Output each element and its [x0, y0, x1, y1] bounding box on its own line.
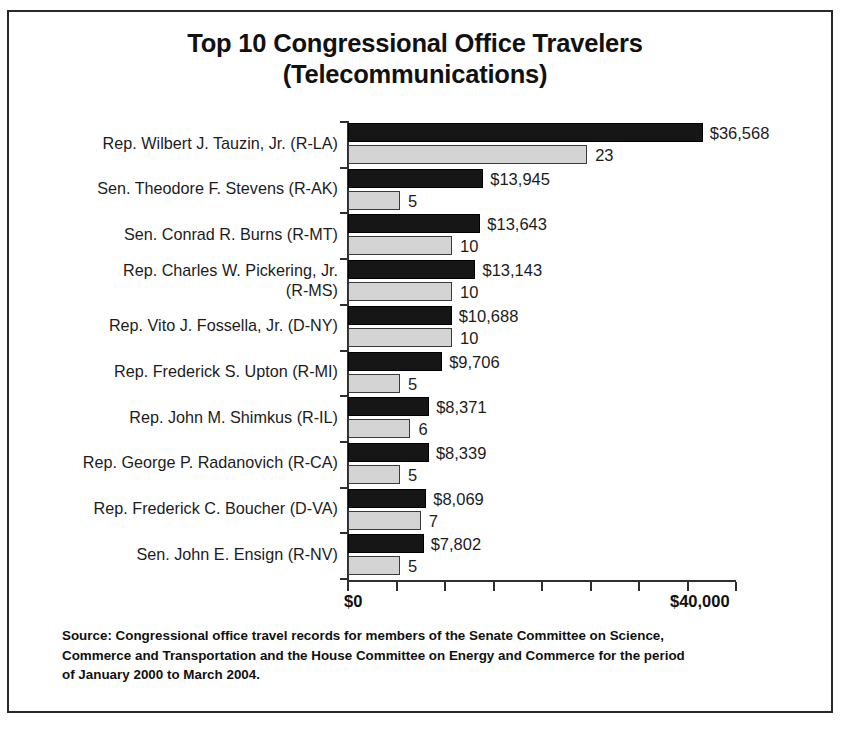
bar-value-travel-cost: $8,339 [436, 444, 486, 463]
bar-value-trip-count: 7 [429, 512, 438, 531]
category-label-text: Rep. George P. Radanovich (R-CA) [18, 452, 338, 472]
y-axis-tick [340, 578, 348, 580]
source-note-line: of January 2000 to March 2004. [62, 665, 762, 685]
category-label-text: Rep. Frederick S. Upton (R-MI) [18, 361, 338, 381]
bar-value-travel-cost: $8,371 [436, 398, 486, 417]
y-axis-tick [340, 395, 348, 397]
bar-value-travel-cost: $36,568 [710, 124, 770, 143]
bar-value-travel-cost: $13,643 [487, 215, 547, 234]
bar-trip-count [348, 556, 400, 575]
y-axis-tick [340, 212, 348, 214]
x-axis-tick [687, 582, 689, 591]
bar-trip-count [348, 328, 452, 347]
bar-travel-cost [348, 306, 452, 325]
bar-travel-cost [348, 489, 426, 508]
category-label-line: Rep. John M. Shimkus (R-IL) [18, 407, 338, 427]
bar-trip-count [348, 465, 400, 484]
x-axis-tick [347, 582, 349, 591]
bar-value-travel-cost: $7,802 [431, 535, 481, 554]
bar-travel-cost [348, 534, 424, 553]
y-axis-tick [340, 487, 348, 489]
y-axis-tick [340, 304, 348, 306]
bar-trip-count [348, 191, 400, 210]
bar-value-travel-cost: $10,688 [459, 307, 519, 326]
chart-figure: Top 10 Congressional Office Travelers (T… [0, 0, 860, 740]
bar-trip-count [348, 236, 452, 255]
source-note-line: Source: Congressional office travel reco… [62, 626, 762, 646]
bar-travel-cost [348, 443, 429, 462]
y-axis-tick [340, 532, 348, 534]
bar-travel-cost [348, 169, 483, 188]
category-label-line: Sen. Conrad R. Burns (R-MT) [18, 224, 338, 244]
category-label: Rep. Wilbert J. Tauzin, Jr. (R-LA) [18, 133, 338, 153]
source-note: Source: Congressional office travel reco… [62, 626, 762, 685]
category-label-line: Rep. Frederick C. Boucher (D-VA) [18, 498, 338, 518]
bar-travel-cost [348, 214, 480, 233]
bar-value-travel-cost: $9,706 [449, 353, 499, 372]
x-axis-tick [493, 582, 495, 591]
source-note-line: Commerce and Transportation and the Hous… [62, 646, 762, 666]
bar-value-trip-count: 10 [460, 329, 478, 348]
category-label: Rep. Frederick C. Boucher (D-VA) [18, 498, 338, 518]
x-axis-tick [735, 582, 737, 591]
x-axis-tick-label: $40,000 [670, 592, 730, 611]
bar-trip-count [348, 282, 452, 301]
category-label: Sen. Theodore F. Stevens (R-AK) [18, 178, 338, 198]
category-label-text: Sen. John E. Ensign (R-NV) [18, 544, 338, 564]
x-axis-tick [541, 582, 543, 591]
category-label: Rep. Vito J. Fossella, Jr. (D-NY) [18, 315, 338, 335]
x-axis-tick [444, 582, 446, 591]
category-label-line: Sen. John E. Ensign (R-NV) [18, 544, 338, 564]
x-axis-tick [638, 582, 640, 591]
category-label-line: Rep. George P. Radanovich (R-CA) [18, 452, 338, 472]
category-label-text: Rep. Wilbert J. Tauzin, Jr. (R-LA) [18, 133, 338, 153]
bar-travel-cost [348, 260, 475, 279]
category-label-text: Sen. Conrad R. Burns (R-MT) [18, 224, 338, 244]
x-axis-tick [396, 582, 398, 591]
bar-value-trip-count: 5 [408, 192, 417, 211]
bar-value-trip-count: 10 [460, 237, 478, 256]
category-label-text: Rep. Frederick C. Boucher (D-VA) [18, 498, 338, 518]
bar-value-travel-cost: $8,069 [433, 490, 483, 509]
category-label-line: Rep. Wilbert J. Tauzin, Jr. (R-LA) [18, 133, 338, 153]
category-label-line: (R-MS) [18, 280, 338, 300]
category-label-text: Rep. Charles W. Pickering, Jr.(R-MS) [18, 260, 338, 300]
category-label-text: Sen. Theodore F. Stevens (R-AK) [18, 178, 338, 198]
bar-value-trip-count: 10 [460, 283, 478, 302]
y-axis-tick [340, 350, 348, 352]
bar-trip-count [348, 374, 400, 393]
bar-travel-cost [348, 123, 703, 142]
y-axis-tick [340, 167, 348, 169]
bar-value-trip-count: 6 [418, 420, 427, 439]
bar-trip-count [348, 145, 587, 164]
bar-value-trip-count: 5 [408, 375, 417, 394]
category-label: Rep. Frederick S. Upton (R-MI) [18, 361, 338, 381]
y-axis-tick [340, 441, 348, 443]
category-label-line: Rep. Vito J. Fossella, Jr. (D-NY) [18, 315, 338, 335]
bar-value-travel-cost: $13,143 [482, 261, 542, 280]
x-axis-tick-label: $0 [344, 592, 362, 611]
category-label: Sen. John E. Ensign (R-NV) [18, 544, 338, 564]
bar-value-trip-count: 5 [408, 557, 417, 576]
category-label: Sen. Conrad R. Burns (R-MT) [18, 224, 338, 244]
bar-trip-count [348, 511, 421, 530]
category-label-text: Rep. Vito J. Fossella, Jr. (D-NY) [18, 315, 338, 335]
bar-value-trip-count: 23 [595, 146, 613, 165]
y-axis-tick [340, 121, 348, 123]
category-label-line: Sen. Theodore F. Stevens (R-AK) [18, 178, 338, 198]
x-axis-tick [590, 582, 592, 591]
category-label: Rep. George P. Radanovich (R-CA) [18, 452, 338, 472]
category-label: Rep. John M. Shimkus (R-IL) [18, 407, 338, 427]
bar-value-travel-cost: $13,945 [490, 170, 550, 189]
bar-travel-cost [348, 397, 429, 416]
category-label-line: Rep. Frederick S. Upton (R-MI) [18, 361, 338, 381]
category-label: Rep. Charles W. Pickering, Jr.(R-MS) [18, 260, 338, 300]
category-label-line: Rep. Charles W. Pickering, Jr. [18, 260, 338, 280]
y-axis-tick [340, 258, 348, 260]
bar-value-trip-count: 5 [408, 466, 417, 485]
bar-travel-cost [348, 352, 442, 371]
category-label-text: Rep. John M. Shimkus (R-IL) [18, 407, 338, 427]
bar-trip-count [348, 419, 410, 438]
